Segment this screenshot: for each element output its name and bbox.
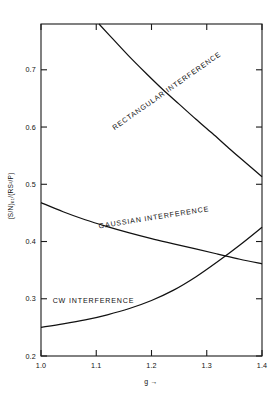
chart-figure: 0.20.30.40.50.60.7 1.01.11.21.31.4 RECTA… (0, 0, 273, 394)
y-tick-label: 0.5 (25, 180, 36, 189)
x-tick-label: 1.0 (36, 361, 47, 370)
x-axis-title: g → (144, 378, 158, 386)
x-tick-label: 1.1 (91, 361, 102, 370)
x-tick-label: 1.2 (146, 361, 157, 370)
y-axis-title: (S/N)₀₁/(RS²/P) (7, 172, 15, 219)
y-tick-label: 0.3 (25, 294, 36, 303)
x-tick-label: 1.3 (201, 361, 212, 370)
y-tick-label: 0.6 (25, 123, 36, 132)
y-tick-label: 0.7 (25, 65, 36, 74)
x-tick-label: 1.4 (257, 361, 268, 370)
interference-line-chart: 0.20.30.40.50.60.7 1.01.11.21.31.4 RECTA… (0, 0, 273, 394)
y-tick-label: 0.4 (25, 237, 36, 246)
curve-label: CW INTERFERENCE (53, 297, 135, 305)
y-tick-label: 0.2 (25, 352, 36, 361)
